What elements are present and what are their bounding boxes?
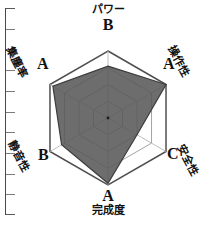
grade-power: B	[84, 17, 132, 34]
grade-quietness: B	[38, 147, 49, 164]
grade-dust: A	[37, 56, 49, 73]
radar-data-polygon	[53, 66, 166, 183]
grade-completeness: A	[84, 188, 132, 205]
radar-center-point	[107, 117, 110, 120]
grade-safety: C	[167, 146, 179, 163]
axis-label-completeness: 完成度	[78, 205, 138, 217]
radar-chart-screenshot: パワー B 操作性 A 安全性 C A 完成度 静音性 B 集塵率 A	[0, 0, 213, 235]
axis-label-power: パワー	[84, 4, 132, 16]
grade-operability: A	[163, 56, 175, 73]
